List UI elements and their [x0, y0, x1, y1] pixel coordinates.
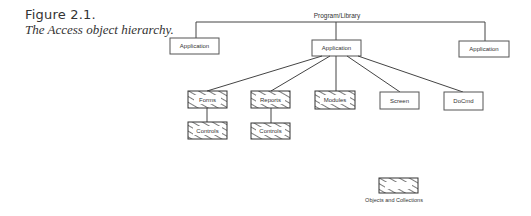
svg-text:Application: Application [180, 43, 209, 49]
svg-text:Reports: Reports [260, 97, 281, 103]
svg-text:Screen: Screen [390, 98, 409, 104]
forms-controls-node: Controls [188, 122, 227, 139]
root-label: Program/Library [314, 12, 361, 20]
svg-text:Application: Application [469, 46, 498, 52]
svg-text:Controls: Controls [259, 128, 281, 134]
screen-node: Screen [380, 92, 419, 109]
svg-text:Controls: Controls [196, 128, 218, 134]
svg-text:Forms: Forms [199, 97, 216, 103]
reports-controls-node: Controls [251, 123, 290, 139]
forms-node: Forms [188, 91, 227, 108]
hierarchy-diagram: Program/Library Application Application … [0, 0, 531, 216]
docmd-node: DoCmd [444, 92, 483, 110]
child-connectors [207, 56, 463, 123]
root-connector [196, 22, 485, 41]
application-node-left: Application [170, 38, 219, 54]
reports-node: Reports [251, 91, 290, 108]
svg-text:Application: Application [322, 45, 351, 51]
application-node-center: Application [312, 40, 361, 56]
modules-node: Modules [315, 91, 355, 109]
legend: Objects and Collections [365, 178, 423, 203]
legend-label: Objects and Collections [365, 197, 423, 203]
svg-text:DoCmd: DoCmd [453, 98, 473, 104]
application-node-right: Application [459, 41, 509, 57]
svg-text:Modules: Modules [324, 97, 347, 103]
